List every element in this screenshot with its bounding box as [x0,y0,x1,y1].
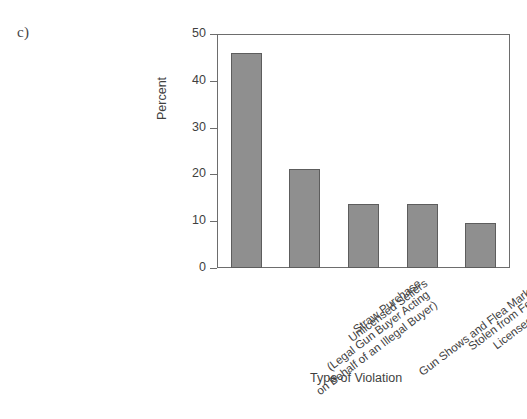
bar [407,204,438,268]
figure-panel: c) 01020304050 Percent Straw Purchase(Le… [0,0,527,419]
y-axis-tick-mark [210,81,217,82]
y-axis-tick-mark [210,268,217,269]
y-axis-title: Percent [155,77,169,120]
y-axis-tick-mark [210,34,217,35]
y-axis: 01020304050 [150,20,220,290]
plot-area [217,34,510,268]
y-axis-tick-label: 0 [199,260,206,274]
panel-letter: c) [17,24,29,41]
bar [348,204,379,268]
x-axis-title: Type of Violation [310,371,402,385]
bar [289,169,320,268]
y-axis-tick-label: 30 [192,120,206,134]
y-axis-tick-mark [210,128,217,129]
bar [465,223,496,268]
y-axis-tick-mark [210,174,217,175]
y-axis-tick-label: 40 [192,73,206,87]
bar [231,53,262,268]
y-axis-tick-label: 10 [192,213,206,227]
y-axis-tick-mark [210,221,217,222]
y-axis-tick-label: 50 [192,26,206,40]
y-axis-tick-label: 20 [192,166,206,180]
